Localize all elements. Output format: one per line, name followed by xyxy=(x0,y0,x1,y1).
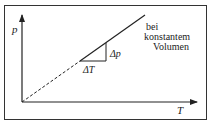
y-axis-label: p xyxy=(11,23,18,35)
condition-annotation: bei konstantem Volumen xyxy=(144,21,193,52)
delta-t-label: ΔT xyxy=(82,64,96,75)
pressure-temperature-diagram: p T ΔT Δp bei konstantem Volumen xyxy=(0,0,211,128)
x-axis-label: T xyxy=(177,104,184,116)
delta-p-label: Δp xyxy=(109,48,121,59)
extrapolation-dashed-line xyxy=(22,61,80,102)
